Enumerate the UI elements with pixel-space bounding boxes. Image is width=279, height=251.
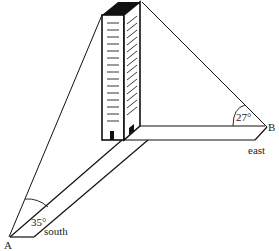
angle-label-B: 27° xyxy=(236,111,251,123)
building xyxy=(102,2,140,140)
point-label-A: A xyxy=(4,239,12,251)
building-diagram: 35° 27° A B south east xyxy=(0,0,279,251)
front-door xyxy=(110,131,114,140)
sight-line-A xyxy=(9,15,102,237)
direction-label-south: south xyxy=(44,225,68,237)
direction-label-east: east xyxy=(248,144,265,156)
building-side-face xyxy=(124,2,140,140)
point-label-B: B xyxy=(268,121,275,133)
east-road xyxy=(123,126,267,140)
angle-arc-A xyxy=(25,199,48,207)
sight-line-B xyxy=(142,2,267,127)
